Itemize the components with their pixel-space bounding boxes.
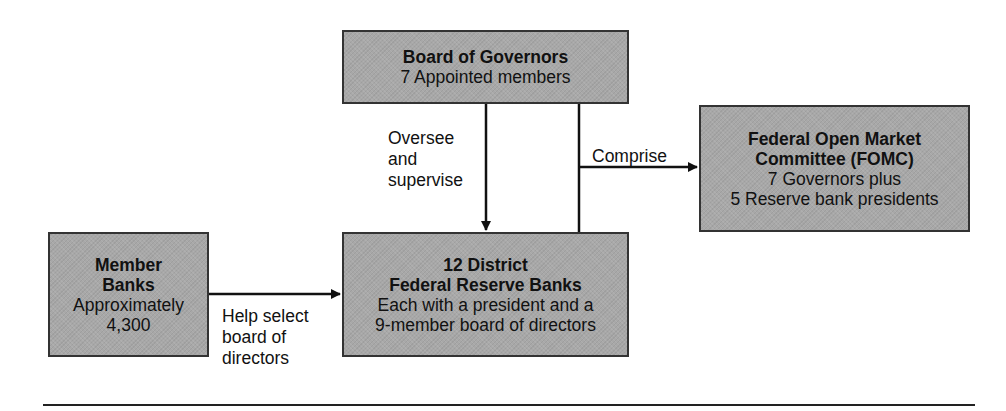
member-title-line-1: Member [95,255,162,275]
bottom-rule [43,404,975,406]
comprise-label: Comprise [592,146,667,167]
member-banks-box: Member Banks Approximately 4,300 [48,232,209,357]
district-detail-line-2: 9-member board of directors [375,315,596,335]
fomc-detail-line-2: 5 Reserve bank presidents [730,189,938,209]
district-banks-box: 12 District Federal Reserve Banks Each w… [342,232,629,357]
fomc-box: Federal Open Market Committee (FOMC) 7 G… [699,105,970,232]
fomc-title-line-2: Committee (FOMC) [755,149,913,169]
oversee-line-2: and [388,149,463,170]
district-detail-line-1: Each with a president and a [378,295,594,315]
oversee-label: Oversee and supervise [388,128,463,191]
board-of-governors-box: Board of Governors 7 Appointed members [342,30,629,104]
oversee-line-1: Oversee [388,128,463,149]
district-title-line-2: Federal Reserve Banks [389,275,582,295]
fomc-detail-line-1: 7 Governors plus [768,169,901,189]
board-title: Board of Governors [403,47,568,67]
help-select-label: Help select board of directors [222,306,309,369]
member-detail-line-1: Approximately [73,295,184,315]
district-title-line-1: 12 District [443,255,528,275]
member-detail-line-2: 4,300 [107,315,151,335]
help-select-line-3: directors [222,348,309,369]
help-select-line-1: Help select [222,306,309,327]
board-members: 7 Appointed members [400,67,570,87]
fomc-title-line-1: Federal Open Market [748,129,921,149]
member-title-line-2: Banks [102,275,155,295]
help-select-line-2: board of [222,327,309,348]
oversee-line-3: supervise [388,170,463,191]
